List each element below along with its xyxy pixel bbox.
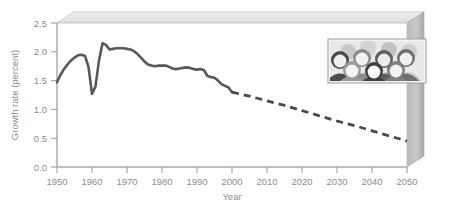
x-axis-ticks	[57, 167, 407, 173]
x-tick-label: 2010	[256, 176, 277, 187]
x-tick-label: 2030	[326, 176, 347, 187]
chart-figure: 2.5 2.0 1.5 1.0 0.5 0.0 Growth rate (per…	[0, 0, 462, 210]
x-tick-label: 1980	[151, 176, 172, 187]
x-tick-label: 2050	[396, 176, 417, 187]
crowd-photo-inset	[326, 39, 426, 83]
x-axis-tick-labels: 1950 1960 1970 1980 1990 2000 2010 2020 …	[46, 176, 417, 187]
x-tick-label: 1960	[81, 176, 102, 187]
y-tick-label: 2.0	[34, 46, 47, 57]
box-right-wall	[407, 12, 424, 167]
x-tick-label: 2040	[361, 176, 382, 187]
y-axis-tick-labels: 2.5 2.0 1.5 1.0 0.5 0.0	[34, 18, 47, 173]
y-tick-label: 2.5	[34, 18, 47, 29]
y-tick-label: 0.5	[34, 133, 47, 144]
x-tick-label: 1950	[46, 176, 67, 187]
box-top-face	[57, 12, 424, 23]
growth-rate-line-chart: 2.5 2.0 1.5 1.0 0.5 0.0 Growth rate (per…	[0, 0, 462, 210]
x-tick-label: 1970	[116, 176, 137, 187]
x-tick-label: 2000	[221, 176, 242, 187]
y-tick-label: 1.5	[34, 75, 47, 86]
y-axis-title: Growth rate (percent)	[9, 50, 20, 140]
y-tick-label: 1.0	[34, 104, 47, 115]
y-axis-ticks	[51, 23, 57, 167]
x-tick-label: 2020	[291, 176, 312, 187]
x-axis-title: Year	[222, 191, 241, 202]
x-tick-label: 1990	[186, 176, 207, 187]
y-tick-label: 0.0	[34, 162, 47, 173]
